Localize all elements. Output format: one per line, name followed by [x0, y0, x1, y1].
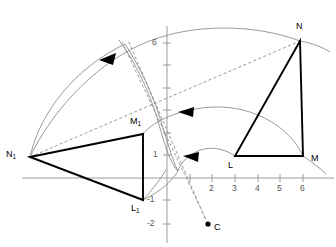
point-label-L1-sub: 1	[136, 207, 140, 214]
point-label-N1-text: N	[6, 149, 13, 159]
x-tick-label-5: 5	[277, 184, 282, 193]
triangle-L1M1N1	[30, 134, 143, 200]
triangle-LMN	[235, 41, 303, 156]
arc-N-to-N1	[30, 28, 300, 157]
point-label-N: N	[296, 22, 303, 31]
point-label-N1-sub: 1	[13, 153, 17, 160]
point-label-M: M	[311, 154, 319, 163]
y-tick-label-6: 6	[152, 38, 157, 47]
point-label-L1: L1	[131, 204, 140, 213]
x-tick-label-4: 4	[255, 184, 260, 193]
x-tick-label-2: 2	[209, 184, 214, 193]
arc-L-to-L1	[178, 148, 235, 171]
arc-outer-top-right	[300, 41, 330, 52]
arc-arrowheads	[99, 53, 199, 162]
arc-sweep-upper	[125, 44, 178, 171]
y-tick-label-neg2: -2	[147, 219, 155, 228]
arc-sweep-secondary	[119, 40, 178, 171]
point-label-M1: M1	[130, 117, 141, 126]
y-tick-label-1: 1	[153, 150, 158, 159]
diagram-canvas	[0, 0, 336, 247]
arrow-head-arc-L	[183, 152, 199, 162]
point-label-L: L	[228, 161, 233, 170]
point-C-marker	[205, 221, 210, 226]
y-tick-label-neg1: -1	[147, 195, 155, 204]
chord-N1-to-N	[30, 41, 300, 157]
arrow-head-arc-N	[99, 53, 116, 65]
point-label-N1: N1	[6, 150, 16, 159]
point-label-M1-sub: 1	[138, 120, 142, 127]
point-label-M1-text: M	[130, 116, 138, 126]
dashed-construction-lines	[30, 40, 300, 224]
coordinate-axes	[22, 26, 334, 243]
x-tick-label-3: 3	[232, 184, 237, 193]
x-tick-label-6: 6	[300, 184, 305, 193]
point-label-C: C	[214, 223, 221, 232]
geometry-figure: N M L N1 M1 L1 C 2 3 4 5 6 6 1 -1 -2	[0, 0, 336, 247]
arrow-head-arc-M	[178, 107, 194, 117]
